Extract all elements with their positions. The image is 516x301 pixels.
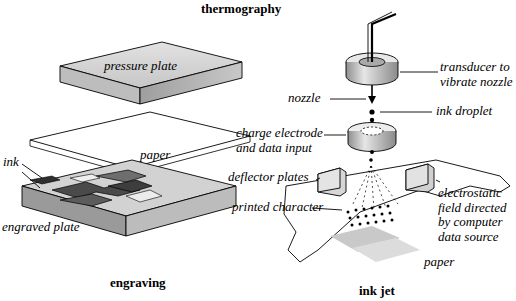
label-electrostatic-field: electrostatic field directed by computer… bbox=[438, 186, 514, 244]
label-printed-character: printed character bbox=[232, 200, 323, 215]
charge-electrode-shape bbox=[348, 123, 396, 162]
figure-canvas: thermography pressure plate paper ink en… bbox=[0, 0, 516, 301]
figure-title-thermography: thermography bbox=[201, 2, 281, 17]
label-nozzle: nozzle bbox=[288, 91, 321, 106]
label-engraved-plate: engraved plate bbox=[2, 220, 84, 235]
label-charge-electrode: charge electrode and data input bbox=[236, 126, 326, 155]
label-paper-right: paper bbox=[424, 255, 454, 270]
caption-inkjet: ink jet bbox=[359, 284, 395, 299]
label-paper-left: paper bbox=[140, 148, 170, 163]
label-ink-droplet: ink droplet bbox=[436, 104, 492, 119]
caption-engraving: engraving bbox=[110, 276, 166, 291]
label-deflector-plates: deflector plates bbox=[228, 170, 309, 185]
label-pressure-plate: pressure plate bbox=[104, 59, 177, 74]
nozzle-shape bbox=[368, 85, 376, 122]
label-ink: ink bbox=[3, 155, 19, 170]
transducer-shape bbox=[346, 12, 398, 85]
label-transducer: transducer to vibrate nozzle bbox=[440, 60, 514, 89]
